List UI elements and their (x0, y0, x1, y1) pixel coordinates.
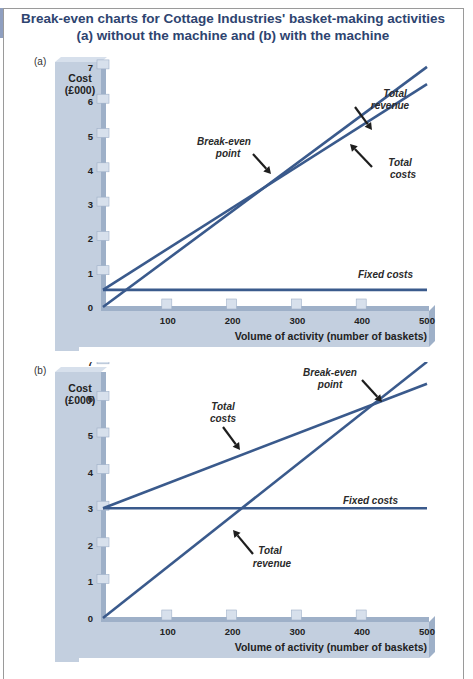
chart-b: 01234567100200300400500Cost(£000)Volume … (0, 362, 473, 662)
label-break-even: Break-even (303, 367, 357, 378)
y-tick-label: 3 (88, 503, 93, 514)
label-fixed-costs: Fixed costs (343, 495, 398, 506)
y-tick-tab (97, 538, 109, 547)
y-tick-tab (97, 197, 109, 206)
x-tick-label: 400 (354, 626, 370, 637)
x-tick-label: 200 (225, 626, 241, 637)
arrow-total-costs (350, 144, 372, 167)
label-break-even: point (215, 148, 241, 159)
y-tick-tab (97, 94, 109, 103)
label-total-revenue: Total (383, 88, 407, 99)
x-tick-label: 200 (225, 315, 241, 326)
y-tick-label: 6 (88, 96, 93, 107)
x-axis-ridge (103, 306, 429, 311)
y-axis-label: Cost (68, 382, 92, 394)
y-axis-unit: (£000) (65, 84, 95, 96)
label-fixed-costs: Fixed costs (358, 269, 413, 280)
x-tick-label: 500 (419, 626, 435, 637)
chart-a: 01234567100200300400500Cost(£000)Volume … (0, 52, 473, 362)
label-total-revenue: revenue (371, 100, 410, 111)
y-tick-tab (97, 129, 109, 138)
x-axis-base-foot (55, 347, 79, 351)
x-axis-base-end (429, 616, 435, 658)
total-costs-line (103, 84, 427, 290)
x-axis-label: Volume of activity (number of baskets) (235, 641, 427, 653)
arrow-break-even (362, 380, 382, 402)
x-tick-label: 400 (354, 315, 370, 326)
x-tick-label: 300 (289, 626, 305, 637)
y-tick-label: 3 (88, 199, 93, 210)
y-tick-label: 0 (88, 302, 93, 313)
label-break-even: Break-even (197, 136, 251, 147)
x-tick-tab (291, 299, 301, 309)
label-total-revenue: revenue (253, 558, 292, 569)
y-tick-tab (97, 574, 109, 583)
y-axis-column-side (101, 372, 106, 622)
label-break-even: point (317, 379, 343, 390)
y-tick-label: 1 (88, 576, 94, 587)
y-tick-label: 5 (88, 430, 94, 441)
x-tick-tab (227, 610, 237, 620)
x-tick-label: 100 (160, 315, 176, 326)
y-tick-label: 4 (88, 467, 94, 478)
y-tick-tab (97, 391, 109, 400)
figure-title: Break-even charts for Cottage Industries… (0, 10, 466, 44)
x-axis-base-foot (55, 658, 79, 662)
x-tick-tab (227, 299, 237, 309)
y-tick-tab (97, 465, 109, 474)
y-tick-tab (97, 266, 109, 275)
x-tick-tab (162, 299, 172, 309)
y-tick-tab (97, 428, 109, 437)
label-total-costs: Total (388, 157, 412, 168)
arrow-total-revenue (233, 530, 253, 554)
arrow-total-costs (223, 427, 240, 450)
y-tick-label: 7 (88, 362, 93, 368)
label-total-costs: Total (211, 401, 235, 412)
y-tick-tab (97, 231, 109, 240)
y-tick-tab (97, 60, 109, 69)
y-tick-label: 5 (88, 131, 94, 142)
x-tick-label: 300 (289, 315, 305, 326)
arrow-break-even (253, 154, 271, 174)
y-tick-label: 1 (88, 268, 94, 279)
y-tick-label: 2 (88, 540, 93, 551)
y-tick-tab (97, 362, 109, 364)
title-line-2: (a) without the machine and (b) with the… (0, 27, 466, 44)
y-tick-tab (97, 163, 109, 172)
x-tick-tab (291, 610, 301, 620)
x-tick-tab (356, 610, 366, 620)
title-line-1: Break-even charts for Cottage Industries… (0, 10, 466, 27)
x-tick-tab (356, 299, 366, 309)
y-axis-column-top (55, 367, 107, 372)
x-axis-label: Volume of activity (number of baskets) (235, 330, 427, 342)
label-total-costs: costs (390, 169, 417, 180)
y-axis-column (55, 372, 101, 624)
y-axis-column (55, 62, 101, 313)
x-tick-label: 100 (160, 626, 176, 637)
y-tick-label: 2 (88, 233, 93, 244)
y-tick-label: 0 (88, 613, 93, 624)
x-tick-tab (162, 610, 172, 620)
label-total-costs: costs (210, 413, 237, 424)
x-axis-base-end (429, 305, 435, 347)
y-axis-unit: (£000) (65, 394, 95, 406)
x-tick-label: 500 (419, 315, 435, 326)
label-total-revenue: Total (258, 545, 282, 556)
y-axis-label: Cost (68, 72, 92, 84)
x-axis-ridge (103, 617, 429, 622)
y-tick-label: 4 (88, 165, 94, 176)
